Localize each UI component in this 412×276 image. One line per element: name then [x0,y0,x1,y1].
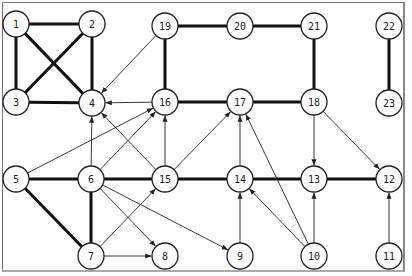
node-label: 6 [88,174,94,185]
node-label: 21 [308,21,320,32]
node-21: 21 [301,13,327,39]
node-label: 1 [13,19,19,30]
directed-edge-16-4 [105,102,152,103]
node-label: 22 [383,21,395,32]
node-label: 16 [159,97,171,108]
node-label: 17 [234,97,246,108]
directed-edge-5-16 [28,108,153,173]
node-label: 19 [159,21,171,32]
edge-3-4 [29,102,79,103]
node-label: 20 [234,21,246,32]
node-8: 8 [152,243,178,269]
node-15: 15 [152,166,178,192]
node-20: 20 [227,13,253,39]
node-label: 7 [88,251,94,262]
node-label: 2 [89,19,95,30]
edge-5-7 [25,188,82,246]
node-label: 14 [234,174,246,185]
node-3: 3 [3,89,29,115]
directed-edge-10-14 [249,189,305,247]
node-label: 8 [162,251,168,262]
directed-edge-6-9 [103,185,228,250]
node-13: 13 [301,166,327,192]
graph-diagram: 1219202122341617182356151413127891011 [0,0,412,276]
node-11: 11 [376,243,402,269]
node-22: 22 [376,13,402,39]
node-label: 15 [159,174,171,185]
node-4: 4 [79,90,105,116]
node-label: 11 [383,251,395,262]
edges [16,24,389,256]
node-14: 14 [227,166,253,192]
node-9: 9 [227,243,253,269]
node-label: 23 [383,98,395,109]
directed-edge-6-4 [91,116,92,166]
node-6: 6 [78,166,104,192]
node-label: 3 [13,97,19,108]
node-5: 5 [3,166,29,192]
node-19: 19 [152,13,178,39]
node-label: 12 [383,174,395,185]
node-17: 17 [227,89,253,115]
node-16: 16 [152,89,178,115]
directed-edge-18-12 [323,111,380,169]
directed-edge-19-4 [101,35,156,93]
node-2: 2 [79,11,105,37]
node-10: 10 [301,243,327,269]
node-label: 18 [308,97,320,108]
node-label: 4 [89,98,95,109]
node-12: 12 [376,166,402,192]
node-23: 23 [376,90,402,116]
node-18: 18 [301,89,327,115]
node-label: 13 [308,174,320,185]
node-label: 10 [308,251,320,262]
directed-edge-15-17 [174,112,231,170]
node-label: 5 [13,174,19,185]
node-7: 7 [78,243,104,269]
node-1: 1 [3,11,29,37]
node-label: 9 [237,251,243,262]
